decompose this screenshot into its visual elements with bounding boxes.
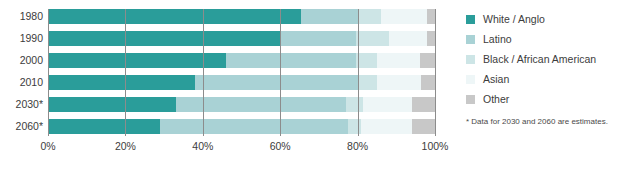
bar-segment (48, 97, 176, 112)
bar-segment (48, 119, 160, 134)
legend-item[interactable]: Latino (466, 29, 625, 49)
legend-label: Other (483, 93, 509, 105)
footnote-text: * Data for 2030 and 2060 are estimates. (466, 117, 608, 126)
legend-item[interactable]: Other (466, 89, 625, 109)
bar-segment (412, 119, 435, 134)
bar-segment (363, 97, 411, 112)
bar-segment (412, 97, 435, 112)
bar-segment (356, 53, 377, 68)
bar-segment (358, 75, 377, 90)
bar-segment (427, 9, 435, 24)
gridline-100 (435, 9, 436, 136)
legend-item[interactable]: Black / African American (466, 49, 625, 69)
bar-segment (226, 53, 356, 68)
bar-segment (48, 53, 226, 68)
bar-segment (346, 97, 363, 112)
bar-segment (348, 119, 362, 134)
y-axis-label-2060star: 2060* (16, 119, 43, 134)
y-axis-category-labels: 19801990200020102030*2060* (0, 9, 43, 136)
bar-segment (427, 31, 435, 46)
legend-label: Black / African American (483, 53, 596, 65)
bar-segment (48, 75, 195, 90)
legend-swatch-icon (466, 15, 475, 24)
plot-area (48, 9, 435, 136)
x-tick-label: 20% (115, 140, 136, 152)
y-axis-label-2030star: 2030* (16, 97, 43, 112)
y-axis-label-2010: 2010 (20, 75, 43, 90)
legend-label: Asian (483, 73, 509, 85)
bar-row (48, 53, 435, 68)
legend-label: Latino (483, 33, 512, 45)
y-axis-label-1980: 1980 (20, 9, 43, 24)
y-axis-label-2000: 2000 (20, 53, 43, 68)
x-tick-label: 0% (40, 140, 55, 152)
bar-segment (195, 75, 358, 90)
stacked-bar-chart: 19801990200020102030*2060* 0%20%40%60%80… (0, 0, 455, 171)
legend: White / AngloLatinoBlack / African Ameri… (466, 9, 625, 109)
x-tick-label: 60% (270, 140, 291, 152)
x-tick-label: 100% (422, 140, 449, 152)
bar-row (48, 31, 435, 46)
bar-segment (377, 53, 420, 68)
legend-swatch-icon (466, 55, 475, 64)
bar-row (48, 75, 435, 90)
bar-segment (160, 119, 348, 134)
bar-segment (48, 9, 301, 24)
legend-swatch-icon (466, 95, 475, 104)
bar-rows (48, 9, 435, 136)
bar-row (48, 119, 435, 134)
bar-segment (420, 53, 435, 68)
legend-item[interactable]: White / Anglo (466, 9, 625, 29)
legend-swatch-icon (466, 35, 475, 44)
bar-segment (301, 9, 357, 24)
legend-label: White / Anglo (483, 13, 545, 25)
legend-item[interactable]: Asian (466, 69, 625, 89)
x-tick-label: 80% (347, 140, 368, 152)
bar-segment (356, 31, 389, 46)
bar-segment (361, 119, 411, 134)
bar-segment (389, 31, 428, 46)
x-axis-tick-labels: 0%20%40%60%80%100% (48, 140, 435, 156)
bar-segment (377, 75, 422, 90)
bar-segment (48, 31, 280, 46)
bar-row (48, 9, 435, 24)
bar-segment (176, 97, 346, 112)
chart-container: 19801990200020102030*2060* 0%20%40%60%80… (0, 0, 625, 171)
bar-segment (421, 75, 435, 90)
bar-segment (381, 9, 427, 24)
x-tick-label: 40% (192, 140, 213, 152)
bar-segment (358, 9, 381, 24)
y-axis-label-1990: 1990 (20, 31, 43, 46)
bar-segment (280, 31, 355, 46)
bar-row (48, 97, 435, 112)
legend-swatch-icon (466, 75, 475, 84)
